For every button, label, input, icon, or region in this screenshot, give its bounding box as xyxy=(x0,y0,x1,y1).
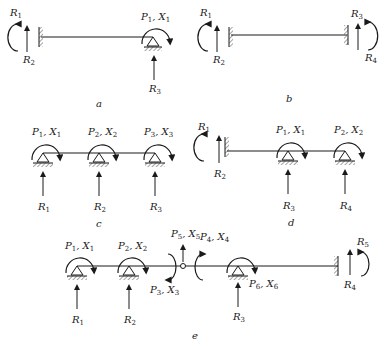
label-P3-X3: P3, X3 xyxy=(143,126,173,139)
pin-support xyxy=(147,37,159,46)
label-R3: R3 xyxy=(232,311,245,324)
label-R3: R3 xyxy=(350,8,363,21)
label-R1: R1 xyxy=(199,7,212,20)
label-R1: R1 xyxy=(37,201,50,214)
caption-c: c xyxy=(96,218,102,229)
label-P1-X1: P1, X1 xyxy=(64,240,94,253)
pin-support-2 xyxy=(119,266,139,280)
label-P6-X6: P6, X6 xyxy=(248,278,279,291)
label-R2: R2 xyxy=(22,54,35,67)
pin-support-1 xyxy=(33,153,53,167)
label-P4-X4: P4, X4 xyxy=(199,231,230,244)
pin-support-2 xyxy=(89,153,109,167)
pin-support-2 xyxy=(335,151,355,165)
figure-b: R1 R2 R3 R4 b xyxy=(198,7,378,104)
figure-e: P1, X1 P2, X2 P3, X3 P5, X5 P4, X4 P6, X… xyxy=(64,228,369,341)
internal-hinge xyxy=(181,264,186,269)
label-P3-X3: P3, X3 xyxy=(149,284,179,297)
pin-support-3 xyxy=(228,266,248,280)
label-P1-X1: P1, X1 xyxy=(31,126,61,139)
caption-a: a xyxy=(96,98,102,109)
wall-hatch-right xyxy=(344,25,348,45)
label-R4: R4 xyxy=(343,279,357,292)
wall-hatch xyxy=(225,137,229,157)
moment-arrow-P4 xyxy=(195,254,203,280)
label-R2: R2 xyxy=(93,201,106,214)
ground-hatch xyxy=(144,47,162,51)
moment-arrow-R5 xyxy=(361,252,369,276)
label-R5: R5 xyxy=(356,236,369,249)
label-P5-X5: P5, X5 xyxy=(170,228,200,241)
caption-d: d xyxy=(288,217,294,228)
label-P1-X1: P1, X1 xyxy=(140,11,170,24)
label-R4: R4 xyxy=(364,52,378,65)
label-P1-X1: P1, X1 xyxy=(275,124,305,137)
moment-arrow-P3 xyxy=(168,254,176,280)
pin-support-1 xyxy=(278,151,298,165)
caption-e: e xyxy=(192,330,198,341)
pin-support-3 xyxy=(145,153,165,167)
label-R3: R3 xyxy=(148,83,161,96)
pin-support-1 xyxy=(67,266,87,280)
label-R3: R3 xyxy=(149,201,162,214)
figure-a: R1 R2 P1, X1 R3 a xyxy=(8,7,170,109)
label-P2-X2: P2, X2 xyxy=(87,126,117,139)
wall-hatch-left xyxy=(229,27,233,47)
moment-arrow-R1 xyxy=(198,24,208,51)
caption-b: b xyxy=(286,93,292,104)
figure-c: P1, X1 P2, X2 P3, X3 R1 R2 R3 c xyxy=(31,126,173,229)
label-R3: R3 xyxy=(282,200,295,213)
label-R2: R2 xyxy=(212,54,225,67)
figure-d: R1 R2 P1, X1 P2, X2 R3 R4 d xyxy=(194,121,363,228)
label-P2-X2: P2, X2 xyxy=(117,240,147,253)
label-R1: R1 xyxy=(9,7,22,20)
label-R2: R2 xyxy=(213,168,226,181)
label-R4: R4 xyxy=(339,200,353,213)
moment-arrow-R4 xyxy=(368,22,378,50)
label-R2: R2 xyxy=(123,314,136,327)
label-R1: R1 xyxy=(197,121,210,134)
moment-arrow-R1 xyxy=(8,24,18,51)
label-P2-X2: P2, X2 xyxy=(333,124,363,137)
moment-arrow-R1 xyxy=(194,134,204,161)
wall-hatch xyxy=(334,256,338,276)
structural-diagrams: R1 R2 P1, X1 R3 a R1 R2 R3 R4 b xyxy=(0,0,389,345)
label-R1: R1 xyxy=(71,314,84,327)
